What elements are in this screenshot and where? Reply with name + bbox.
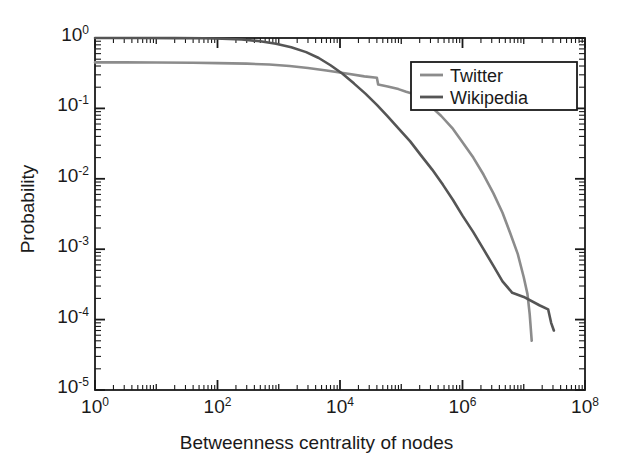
x-axis-label: Betweenness centrality of nodes — [0, 432, 633, 454]
xtick-label-3: 106 — [441, 397, 485, 416]
ytick-label-0: 100 — [34, 25, 89, 44]
legend-label-twitter: Twitter — [450, 67, 503, 85]
xtick-label-1: 102 — [196, 397, 240, 416]
xtick-label-2: 104 — [318, 397, 362, 416]
ytick-label-3: 10-3 — [34, 236, 89, 255]
ytick-label-1: 10-1 — [34, 95, 89, 114]
ytick-label-4: 10-4 — [34, 307, 89, 326]
y-axis-label: Probability — [17, 119, 39, 299]
chart-figure: 100 10-1 10-2 10-3 10-4 10-5 100 102 104… — [0, 0, 633, 468]
ytick-label-5: 10-5 — [34, 377, 89, 396]
legend-label-wikipedia: Wikipedia — [450, 89, 528, 107]
xtick-label-4: 108 — [563, 397, 607, 416]
ytick-label-2: 10-2 — [34, 166, 89, 185]
xtick-label-0: 100 — [73, 397, 117, 416]
